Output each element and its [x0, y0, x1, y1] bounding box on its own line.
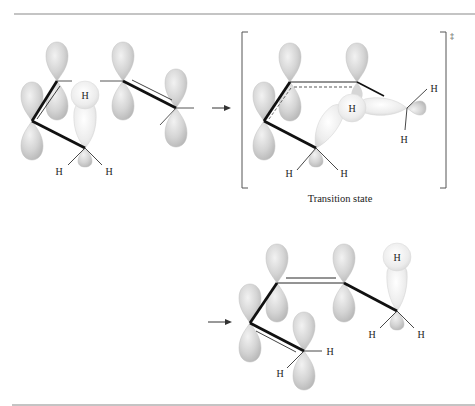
sigmatropic-shift-diagram: H H H ‡: [0, 0, 475, 406]
atom-label-h: H: [105, 166, 112, 177]
atom-label-h: H: [340, 168, 347, 179]
atom-label-h: H: [368, 329, 375, 340]
arrow-2: [208, 319, 232, 325]
atom-label-h: H: [393, 252, 400, 263]
atom-label-h: H: [348, 103, 355, 114]
atom-label-h: H: [55, 166, 62, 177]
product-structure: H H H H H: [239, 243, 425, 390]
atom-label-h: H: [285, 168, 292, 179]
transition-state-structure: ‡ H H H H H: [242, 32, 454, 188]
double-dagger: ‡: [450, 32, 454, 41]
reaction-arrow-1: [212, 105, 231, 111]
atom-label-h: H: [276, 368, 283, 379]
atom-label-h: H: [417, 329, 424, 340]
transition-state-caption: Transition state: [308, 193, 373, 204]
atom-label-h: H: [430, 83, 437, 94]
atom-label-h: H: [400, 134, 407, 145]
atom-label-h: H: [81, 90, 88, 101]
atom-label-h: H: [326, 346, 333, 357]
reactant-structure: H H H: [21, 42, 194, 177]
